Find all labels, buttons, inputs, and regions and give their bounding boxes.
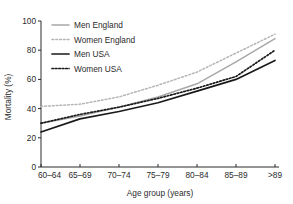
x-axis-title: Age group (years) [127,188,194,198]
y-tick-label: 60 [27,74,37,84]
legend-label-women-usa: Women USA [74,64,122,74]
y-tick-label: 20 [27,133,37,143]
y-tick-label: 0 [31,162,36,172]
mortality-line-chart: 020406080100 60–6465–6970–7475–7980–8485… [0,0,293,204]
y-axis-title: Mortality (%) [3,73,13,120]
y-tick-label: 100 [22,16,36,26]
chart-canvas: 020406080100 60–6465–6970–7475–7980–8485… [0,0,293,204]
legend-label-women-england: Women England [74,35,136,45]
x-tick-label: 75–79 [146,170,169,180]
y-tick-label: 80 [27,45,37,55]
x-tick-label: 60–64 [38,170,61,180]
y-axis-tick-labels: 020406080100 [22,16,36,172]
series-line-women-usa [41,50,275,123]
x-tick-label: 85–89 [224,170,247,180]
y-tick-label: 40 [27,104,37,114]
x-tick-label: >89 [268,170,282,180]
x-tick-label: 65–69 [68,170,91,180]
x-tick-label: 70–74 [107,170,130,180]
legend: Men EnglandWomen EnglandMen USAWomen USA [52,20,136,74]
x-tick-label: 80–84 [185,170,208,180]
legend-label-men-usa: Men USA [74,49,110,59]
legend-label-men-england: Men England [74,20,123,30]
x-axis-tick-labels: 60–6465–6970–7475–7980–8485–89>89 [38,170,282,180]
